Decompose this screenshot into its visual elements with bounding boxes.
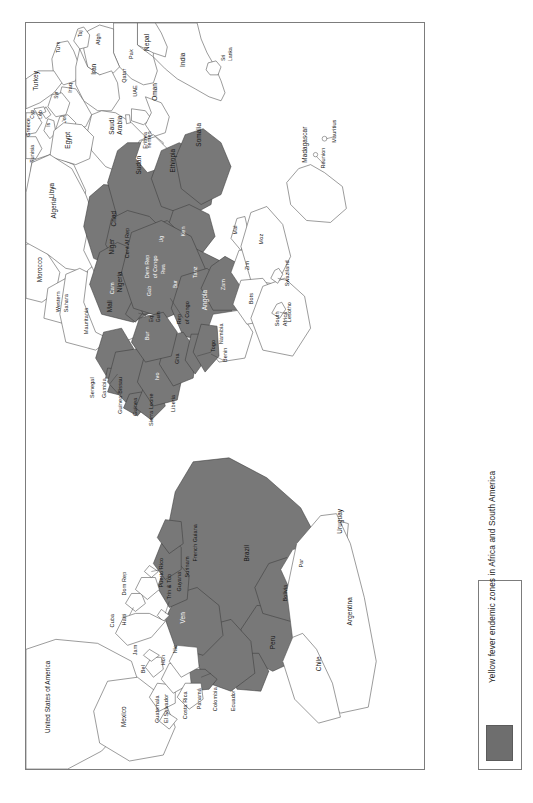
label-usa: United States of America	[44, 660, 51, 733]
label-chad: Chad	[110, 210, 117, 226]
label-swaziland: Swaziland	[284, 260, 290, 286]
label-zam: Zam	[220, 279, 226, 291]
label-sri-lanka-line2: Lanka	[228, 47, 233, 61]
label-sri-lanka-line1: Sri	[221, 55, 226, 61]
label-ven: Ven	[179, 612, 186, 624]
label-uae: UAE	[132, 85, 138, 97]
label-sierra-leone: Sierra Leone	[148, 393, 154, 426]
label-tanz: Tanz	[192, 266, 198, 278]
label-eq-guin-line1: Eq	[149, 316, 154, 322]
label-gab: Gab	[146, 286, 152, 297]
label-taj: Taj	[78, 30, 83, 37]
label-is: Is	[46, 122, 51, 126]
label-cam: Cam	[109, 282, 115, 294]
label-hon: Hon	[160, 655, 166, 665]
island-mauritius	[322, 136, 327, 141]
label-liberia: Liberia	[170, 394, 176, 412]
label-peru: Peru	[269, 635, 276, 649]
label-rwa: Rwa	[161, 264, 166, 274]
label-guinea: Guinea	[132, 397, 138, 416]
island-sri-lanka	[206, 61, 221, 75]
legend-swatch-endemic	[486, 725, 513, 761]
label-afgh: Afgh	[95, 33, 101, 45]
label-bots: Bots	[248, 293, 254, 305]
label-india: India	[179, 52, 186, 67]
label-bolivia: Bolivia	[282, 584, 288, 602]
country-qatar	[126, 115, 131, 124]
island-madagascar	[287, 165, 347, 223]
label-reunion: Réunion	[320, 148, 326, 169]
label-dr-congo-line2: of Congo	[152, 255, 158, 278]
label-gambia: Gambia	[101, 377, 107, 398]
label-zim: Zim	[244, 261, 250, 271]
label-dom-rep: Dom Rep	[121, 572, 127, 596]
label-sudan: Sudan	[135, 155, 142, 174]
label-puerto-rico: Puerto Rico	[158, 558, 164, 588]
label-par: Par	[298, 559, 304, 568]
label-greece: Greece	[26, 118, 31, 137]
label-argentina: Argentina	[346, 597, 354, 626]
label-qatar: Qatar	[121, 69, 127, 83]
label-egypt: Egypt	[64, 132, 72, 149]
label-libya: Libya	[48, 182, 56, 198]
label-mal: Mal	[232, 225, 238, 234]
label-bel: Bel	[140, 665, 146, 673]
label-south-africa-line1: South	[274, 311, 280, 326]
label-mali: Mali	[106, 300, 113, 312]
label-morocco: Morocco	[36, 257, 43, 282]
label-bur-west: Bur	[144, 331, 150, 340]
label-saudi-line2: Arabia	[116, 115, 123, 134]
label-eq-guin-line2: Guin	[156, 311, 161, 322]
label-panama: Panamá	[196, 687, 202, 709]
island-reunion	[313, 152, 317, 156]
label-mauritius: Mauritius	[331, 119, 337, 142]
label-uruguay: Uruguay	[336, 508, 344, 533]
label-costa-rica: Costa Rica	[182, 690, 188, 719]
label-moz: Moz	[258, 234, 264, 245]
label-jor: Jor	[62, 115, 67, 122]
label-cyp: Cyp	[30, 110, 35, 119]
label-ivo: Ivo	[154, 372, 160, 380]
label-nepal: Nepal	[143, 34, 151, 51]
label-benin: Benin	[222, 348, 228, 363]
label-somalia: Somalia	[195, 123, 202, 147]
label-ecuador: Ecuador	[230, 690, 236, 711]
label-senegal: Senegal	[89, 377, 95, 398]
label-saudi-line1: Saudi	[108, 118, 115, 135]
label-western-sahara-line1: Western	[55, 291, 61, 312]
label-rep-congo-line2: of Congo	[184, 301, 190, 324]
label-eritrea: Eritrea	[142, 131, 148, 149]
legend-caption-text: Yellow fever endemic zones in Africa and…	[488, 471, 497, 683]
label-el-salvador: El Salvador	[163, 694, 169, 723]
label-mauritania: Mauritania	[83, 307, 89, 334]
country-tajikistan	[74, 27, 90, 49]
label-ethiopia: Ethiopia	[169, 148, 177, 172]
label-nigeria: Nigeria	[116, 271, 124, 292]
country-egypt	[50, 123, 94, 165]
label-cent-af-rep: Cent Af Rep	[124, 228, 130, 259]
label-nic: Nic	[172, 645, 178, 653]
label-leb: Leb	[38, 110, 43, 119]
map-frame: Nepal India Sri Lanka Taj Pak Afgh Turk …	[25, 22, 425, 770]
label-iran: Iran	[90, 63, 97, 75]
label-angola: Angola	[201, 289, 209, 310]
label-syr: Syr	[54, 91, 59, 99]
label-trin-tob: Trin & Tob	[166, 574, 172, 600]
world-map: Nepal India Sri Lanka Taj Pak Afgh Turk …	[26, 23, 424, 769]
label-turk: Turk	[55, 42, 61, 53]
label-lesotho: Lesotho	[286, 302, 292, 322]
label-haiti: Haiti	[121, 614, 127, 625]
label-niger: Niger	[108, 238, 116, 254]
label-iraq: Iraq	[67, 83, 73, 93]
label-gha: Gha	[174, 353, 180, 365]
label-algeria: Algeria	[50, 198, 58, 219]
label-bur-east: Bur	[173, 280, 178, 288]
map-legend: Yellow fever endemic zones in Africa and…	[478, 580, 522, 770]
label-pak: Pak	[128, 49, 134, 59]
label-guinea-bissau: Guinea-Bissau	[117, 377, 123, 414]
label-jam: Jam	[132, 644, 138, 655]
label-french-guiana: French Guiana	[192, 523, 198, 561]
label-ug: Ug	[159, 236, 164, 243]
label-guyana: Guyana	[176, 571, 182, 592]
label-chile: Chile	[315, 656, 322, 671]
